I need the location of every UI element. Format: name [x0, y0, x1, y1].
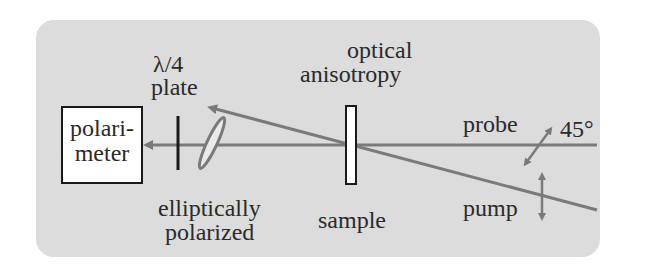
- elliptical-label-line2: polarized: [165, 220, 254, 244]
- elliptical-label-line1: elliptically: [158, 196, 261, 220]
- waveplate-label-line2: plate: [151, 75, 198, 99]
- polarimeter-line1: polari-: [61, 116, 143, 141]
- angle-label: 45°: [560, 117, 594, 141]
- polarimeter-label: polari- meter: [61, 116, 143, 166]
- pump-beam: [212, 108, 597, 210]
- pump-label: pump: [463, 196, 518, 220]
- ellipse-polarization-icon: [196, 116, 229, 171]
- anisotropy-label-line1: optical: [347, 38, 412, 62]
- waveplate-label-line1: λ/4: [153, 52, 183, 76]
- sample-slab: [346, 106, 356, 184]
- probe-label: probe: [463, 112, 518, 136]
- anisotropy-label-line2: anisotropy: [300, 62, 401, 86]
- polarimeter-line2: meter: [61, 141, 143, 166]
- sample-label: sample: [318, 208, 386, 232]
